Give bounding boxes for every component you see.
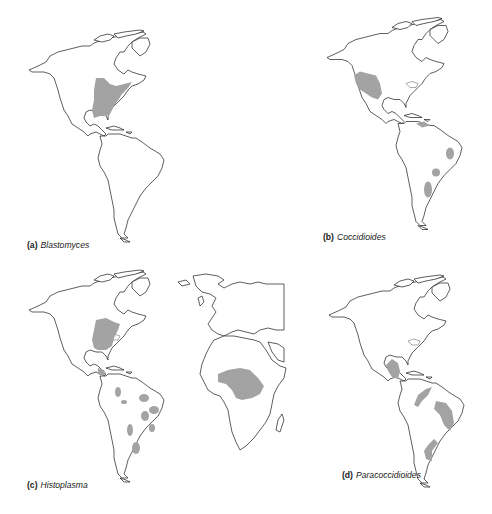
europe-outline (193, 274, 284, 336)
panel-letter: (b) (323, 232, 334, 242)
endemic-region-central-brazil (141, 411, 149, 421)
panel-c-histoplasma: (c)Histoplasma (28, 270, 298, 500)
endemic-region-ne-brazil (446, 148, 454, 160)
endemic-region-argentina (424, 182, 432, 198)
endemic-region-amazon (139, 394, 149, 402)
endemic-region-paraguay (432, 169, 440, 177)
panel-label: (b)Coccidioides (323, 232, 386, 242)
americas-map (28, 30, 198, 255)
panel-letter: (a) (27, 240, 38, 250)
genus-name: Coccidioides (337, 232, 386, 242)
world-map (28, 270, 298, 500)
endemic-region-argentina (132, 442, 140, 454)
panel-a-blastomyces: (a)Blastomyces (28, 30, 198, 255)
endemic-region-ne-brazil (149, 406, 159, 414)
panel-label: (c)Histoplasma (27, 480, 88, 490)
endemic-region-eastern-us (92, 318, 120, 350)
panel-label: (a)Blastomyces (27, 240, 89, 250)
endemic-region-colombia (115, 387, 121, 397)
genus-name: Blastomyces (41, 240, 90, 250)
endemic-region-southern-brazil (149, 424, 155, 432)
genus-name: Paracoccidioides (356, 470, 421, 480)
panel-letter: (c) (27, 480, 38, 490)
genus-name: Histoplasma (41, 480, 88, 490)
panel-b-coccidioides: (b)Coccidioides (326, 10, 492, 250)
panel-letter: (d) (342, 470, 353, 480)
panel-label: (d)Paracoccidioides (342, 470, 421, 480)
endemic-region-peru (121, 400, 127, 404)
endemic-region-bolivia (127, 424, 133, 436)
panel-d-paracoccidioides: (d)Paracoccidioides (328, 270, 492, 505)
americas-map (326, 10, 492, 250)
